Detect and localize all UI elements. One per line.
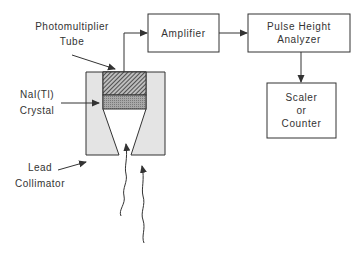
nai-crystal xyxy=(103,95,146,109)
scaler-label: Scaler or Counter xyxy=(267,83,336,138)
photomultiplier-tube xyxy=(103,72,146,95)
pha-label: Pulse Height Analyzer xyxy=(248,14,350,52)
pmt-label: Photomultiplier Tube xyxy=(28,20,116,48)
gamma-ray-1 xyxy=(120,144,126,216)
pmt-label-arrow xyxy=(72,55,115,69)
pmt-to-amplifier-arrow xyxy=(124,33,147,72)
gamma-ray-2 xyxy=(142,166,144,243)
crystal-label: NaI(Tl) Crystal xyxy=(14,88,60,117)
amplifier-label: Amplifier xyxy=(148,14,219,52)
collimator-label: Lead Collimator xyxy=(10,161,70,190)
